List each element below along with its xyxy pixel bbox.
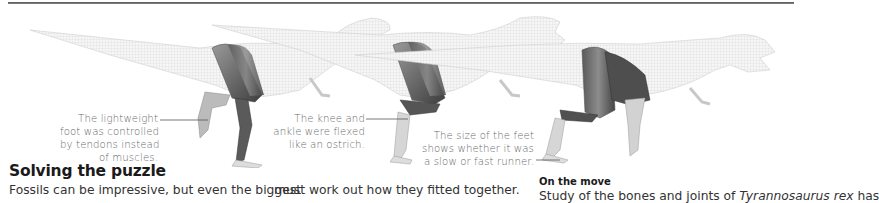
callout-line: The knee and: [270, 112, 365, 125]
trex-3-arm: [690, 88, 710, 104]
callout-line: foot was controlled: [60, 125, 158, 138]
subheading-on-the-move: On the move: [539, 176, 611, 187]
trex-1-arm: [310, 78, 330, 96]
callout-lightweight-foot: The lightweight foot was controlled by t…: [60, 112, 158, 164]
callout-line: The size of the feet: [420, 129, 534, 142]
species-name: Tyrannosaurus rex: [739, 189, 853, 203]
callout-line: like an ostrich.: [270, 138, 365, 151]
body-text-column-2: must work out how they fitted together.: [274, 183, 520, 197]
trex-2-arm: [500, 80, 520, 96]
body-text-suffix: has: [854, 189, 879, 203]
callout-line: a slow or fast runner.: [420, 155, 534, 168]
trex-3-lower-leg: [546, 118, 565, 158]
callout-line: shows whether it was: [420, 142, 534, 155]
callout-line: by tendons instead: [60, 138, 158, 151]
section-heading: Solving the puzzle: [9, 162, 166, 180]
trex-1-rear-leg: [198, 92, 230, 138]
trex-1-foot: [232, 160, 262, 168]
callout-line: ankle were flexed: [270, 125, 365, 138]
trex-3-rear-leg: [625, 98, 645, 156]
callout-line: The lightweight: [60, 112, 158, 125]
body-text-column-3: Study of the bones and joints of Tyranno…: [539, 189, 879, 203]
body-text-column-1: Fossils can be impressive, but even the …: [9, 183, 301, 197]
body-text-prefix: Study of the bones and joints of: [539, 189, 739, 203]
callout-knee-ankle: The knee and ankle were flexed like an o…: [270, 112, 365, 151]
callout-feet-size: The size of the feet shows whether it wa…: [420, 129, 534, 168]
trex-1-shin: [235, 98, 252, 162]
